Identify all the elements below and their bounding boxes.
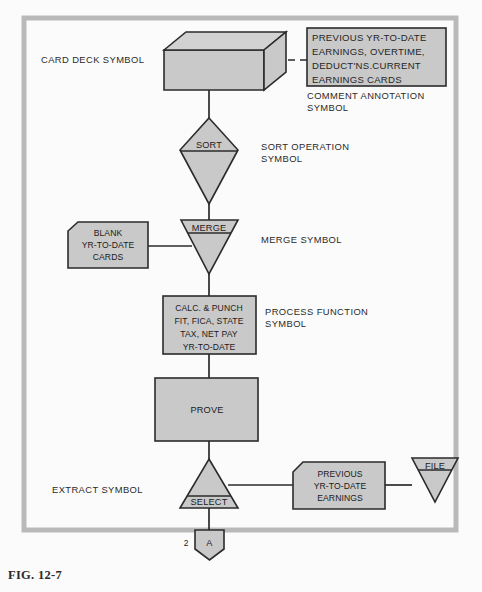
label-card-deck-symbol: CARD DECK SYMBOL <box>41 54 144 65</box>
previous-earnings-line-3: EARNINGS <box>317 493 363 503</box>
blank-cards-line-3: CARDS <box>93 252 124 262</box>
label-process-function-symbol-2: SYMBOL <box>265 318 306 329</box>
label-process-function-symbol-1: PROCESS FUNCTION <box>265 306 368 317</box>
connector-a-label: A <box>206 538 213 548</box>
flowchart-canvas: PREVIOUS YR-TO-DATE EARNINGS, OVERTIME, … <box>0 0 482 566</box>
file-label: FILE <box>425 461 445 471</box>
select-label: SELECT <box>191 497 228 507</box>
previous-earnings-line-1: PREVIOUS <box>317 469 362 479</box>
blank-cards-line-2: YR-TO-DATE <box>82 240 135 250</box>
figure-container: PREVIOUS YR-TO-DATE EARNINGS, OVERTIME, … <box>0 0 482 592</box>
blank-cards-symbol[interactable]: BLANK YR-TO-DATE CARDS <box>68 222 148 268</box>
connector-a-symbol[interactable]: A 2 <box>184 530 224 560</box>
prove-symbol[interactable]: PROVE <box>155 378 258 441</box>
sort-diamond <box>180 118 238 204</box>
label-extract-symbol: EXTRACT SYMBOL <box>52 484 143 495</box>
label-sort-operation-symbol-1: SORT OPERATION <box>261 141 349 152</box>
sort-operation-symbol[interactable]: SORT <box>180 118 238 204</box>
comment-annotation-box[interactable]: PREVIOUS YR-TO-DATE EARNINGS, OVERTIME, … <box>307 28 446 86</box>
process-line-3: TAX, NET PAY <box>180 329 238 339</box>
card-deck-symbol[interactable] <box>164 32 286 90</box>
process-line-4: YR-TO-DATE <box>183 342 236 352</box>
label-merge-symbol: MERGE SYMBOL <box>261 234 342 245</box>
prove-label: PROVE <box>190 405 223 415</box>
file-symbol[interactable]: FILE <box>412 458 458 502</box>
comment-line-3: DEDUCT'NS.CURRENT <box>312 60 421 71</box>
figure-caption: FIG. 12-7 <box>8 568 62 583</box>
previous-earnings-line-2: YR-TO-DATE <box>314 481 367 491</box>
label-comment-annotation-symbol-2: SYMBOL <box>307 102 348 113</box>
comment-line-4: EARNINGS CARDS <box>312 74 402 85</box>
comment-line-1: PREVIOUS YR-TO-DATE <box>312 32 427 43</box>
process-line-2: FIT, FICA, STATE <box>174 316 243 326</box>
sort-label: SORT <box>196 140 222 150</box>
merge-symbol[interactable]: MERGE <box>181 220 238 274</box>
connector-a-number: 2 <box>184 538 189 548</box>
card-deck-front-face <box>164 50 264 90</box>
process-function-symbol[interactable]: CALC. & PUNCH FIT, FICA, STATE TAX, NET … <box>163 296 256 354</box>
process-line-1: CALC. & PUNCH <box>175 303 243 313</box>
blank-cards-line-1: BLANK <box>94 228 123 238</box>
connector-lines <box>148 54 412 530</box>
comment-line-2: EARNINGS, OVERTIME, <box>312 46 425 57</box>
label-sort-operation-symbol-2: SYMBOL <box>261 153 302 164</box>
label-comment-annotation-symbol-1: COMMENT ANNOTATION <box>307 90 425 101</box>
merge-label: MERGE <box>192 223 227 233</box>
previous-earnings-card-symbol[interactable]: PREVIOUS YR-TO-DATE EARNINGS <box>293 462 385 509</box>
extract-select-symbol[interactable]: SELECT <box>180 459 238 508</box>
